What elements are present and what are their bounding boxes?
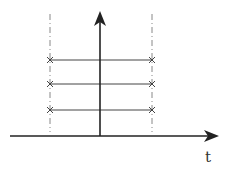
axis-label-t: t xyxy=(205,148,211,166)
cross-markers xyxy=(47,57,155,113)
diagram-canvas: t xyxy=(0,0,227,174)
